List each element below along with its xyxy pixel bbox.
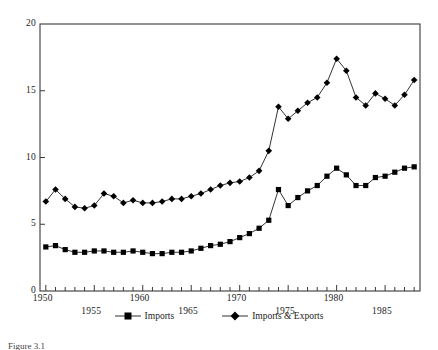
y-tick-10: 10 <box>14 152 36 162</box>
legend-label-imports: Imports <box>145 311 175 321</box>
x-tick-1980: 1980 <box>324 293 344 303</box>
legend-item-imports[interactable]: Imports <box>115 311 175 321</box>
legend-label-imports-exports: Imports & Exports <box>252 311 323 321</box>
legend-swatch-square <box>115 311 141 321</box>
line-chart <box>0 0 438 350</box>
x-tick-1970: 1970 <box>227 293 247 303</box>
legend-swatch-diamond <box>222 311 248 321</box>
figure-caption: Figure 3.1 <box>8 341 45 350</box>
x-tick-1950: 1950 <box>33 293 53 303</box>
y-tick-5: 5 <box>14 218 36 228</box>
chart-series <box>43 55 418 256</box>
x-tick-1960: 1960 <box>130 293 150 303</box>
y-tick-15: 15 <box>14 85 36 95</box>
figure-container: 05101520 1950195519601965197019751980198… <box>0 0 438 350</box>
legend-item-imports-exports[interactable]: Imports & Exports <box>222 311 323 321</box>
chart-legend: Imports Imports & Exports <box>0 311 438 321</box>
y-tick-20: 20 <box>14 18 36 28</box>
